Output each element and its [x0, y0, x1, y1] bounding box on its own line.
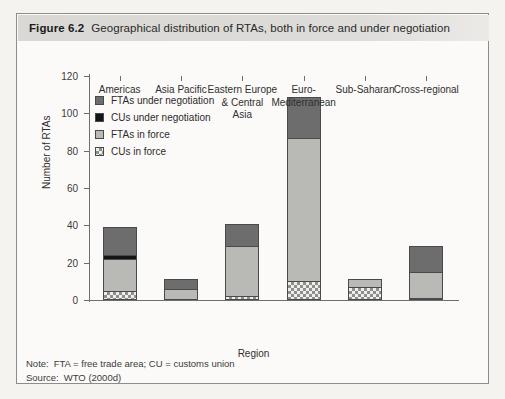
- legend-swatch-icon: [95, 147, 104, 156]
- x-tick: [181, 76, 182, 81]
- bar-segment[interactable]: [409, 272, 443, 298]
- source-label: Source:: [26, 372, 59, 383]
- figure-title: Geographical distribution of RTAs, both …: [91, 22, 450, 34]
- y-tick-label: 60: [67, 183, 78, 194]
- figure-number: Figure 6.2: [29, 22, 84, 34]
- legend-swatch-icon: [95, 130, 104, 139]
- note-label: Note:: [26, 358, 49, 369]
- bar-segment[interactable]: [164, 289, 198, 300]
- note-line: Note:FTA = free trade area; CU = customs…: [26, 357, 486, 371]
- legend-label: CUs in force: [111, 146, 166, 157]
- x-tick: [120, 76, 121, 81]
- bar-segment[interactable]: [225, 296, 259, 300]
- legend-label: CUs under negotiation: [111, 112, 211, 123]
- y-tick-label: 40: [67, 220, 78, 231]
- x-tick: [365, 76, 366, 81]
- bar-segment[interactable]: [164, 279, 198, 288]
- x-tick: [242, 76, 243, 81]
- bar-segment[interactable]: [103, 259, 137, 291]
- legend-item[interactable]: FTAs in force: [95, 126, 214, 143]
- figure-box: Figure 6.2 Geographical distribution of …: [16, 13, 489, 384]
- bar-group[interactable]: [225, 224, 259, 301]
- legend-item[interactable]: CUs in force: [95, 143, 214, 160]
- legend-label: FTAs under negotiation: [111, 95, 214, 106]
- bar-segment[interactable]: [225, 224, 259, 246]
- bar-segment[interactable]: [409, 298, 443, 300]
- y-tick: 0: [84, 300, 89, 301]
- bar-group[interactable]: [348, 279, 382, 300]
- x-tick: [426, 76, 427, 81]
- y-axis-title: Number of RTAs: [41, 115, 52, 189]
- legend-item[interactable]: FTAs under negotiation: [95, 92, 214, 109]
- x-category-label: Cross-regional: [381, 84, 471, 97]
- x-tick: [304, 76, 305, 81]
- bar-segment[interactable]: [103, 227, 137, 255]
- bar-group[interactable]: [409, 246, 443, 300]
- bar-segment[interactable]: [103, 291, 137, 300]
- figure-title-band: Figure 6.2 Geographical distribution of …: [18, 15, 489, 41]
- x-axis-line: [89, 300, 459, 301]
- source-line: Source:WTO (2000d): [26, 371, 486, 385]
- bar-segment[interactable]: [287, 138, 321, 282]
- legend-swatch-icon: [95, 96, 104, 105]
- bar-segment[interactable]: [348, 287, 382, 300]
- y-tick-label: 0: [72, 295, 78, 306]
- bar-segment[interactable]: [225, 246, 259, 296]
- y-tick-label: 120: [61, 71, 78, 82]
- bar-segment[interactable]: [409, 246, 443, 272]
- legend-item[interactable]: CUs under negotiation: [95, 109, 214, 126]
- y-tick-label: 100: [61, 108, 78, 119]
- source-text: WTO (2000d): [64, 372, 121, 383]
- bar-group[interactable]: [103, 227, 137, 300]
- bar-segment[interactable]: [287, 281, 321, 300]
- legend-label: FTAs in force: [111, 129, 170, 140]
- chart-legend: FTAs under negotiationCUs under negotiat…: [95, 92, 214, 160]
- y-tick-label: 20: [67, 257, 78, 268]
- bar-segment[interactable]: [348, 279, 382, 286]
- y-tick-label: 80: [67, 145, 78, 156]
- note-text: FTA = free trade area; CU = customs unio…: [54, 358, 235, 369]
- figure-screenshot: Figure 6.2 Geographical distribution of …: [0, 0, 505, 399]
- legend-swatch-icon: [95, 113, 104, 122]
- bar-group[interactable]: [287, 97, 321, 300]
- figure-footer: Note:FTA = free trade area; CU = customs…: [26, 357, 486, 385]
- bar-group[interactable]: [164, 279, 198, 300]
